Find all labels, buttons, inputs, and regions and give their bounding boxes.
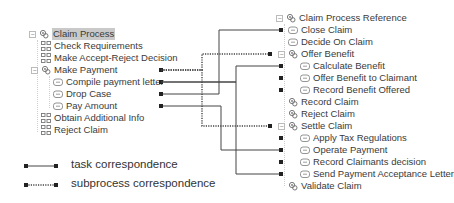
link-endpoint-record-claimants-decision [279,160,283,164]
link-endpoint-apply-tax-regulations [279,136,283,140]
subprocess-correspondence-make-payment-to-offer-benefit[interactable] [161,54,270,70]
legend-task-line-end-marker [54,164,58,168]
subprocess-correspondence-make-payment-to-settle-claim[interactable] [161,70,270,126]
legend-task-line-start-marker [24,164,28,168]
legend-subprocess-label: subprocess correspondence [71,177,215,189]
link-endpoint-calculate-benefit [279,64,283,68]
legend-subprocess-line-start-marker [24,183,28,187]
task-correspondence-drop-case-to-close-claim[interactable] [161,30,281,94]
link-endpoint-offer-benefit-to-claimant [279,76,283,80]
legend-subprocess-line-end-marker [54,183,58,187]
link-endpoint-settle-claim [268,124,272,128]
task-correspondence-pay-amount-to-operate-payment[interactable] [161,106,281,150]
task-correspondence-compile-payment-letter-to-calculate-benefit[interactable] [161,66,281,82]
link-endpoint-send-payment-acceptance-letter [279,172,283,176]
legend-task-label: task correspondence [71,158,178,170]
link-endpoint-operate-payment [279,148,283,152]
link-endpoint-close-claim [279,28,283,32]
link-endpoint-record-benefit-offered [279,88,283,92]
link-endpoint-offer-benefit [268,52,272,56]
link-endpoint-drop-case [159,92,163,96]
link-endpoint-pay-amount [159,104,163,108]
